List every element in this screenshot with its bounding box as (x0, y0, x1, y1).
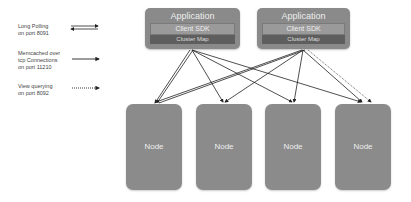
cluster-map: Cluster Map (262, 35, 345, 44)
legend-long-polling: Long Polling on port 8091 (18, 23, 49, 37)
client-sdk: Client SDK (150, 23, 235, 35)
node-3: Node (265, 104, 321, 190)
application-box-2: Application Client SDK Cluster Map (257, 8, 350, 49)
cluster-map: Cluster Map (150, 35, 235, 44)
application-title: Application (145, 11, 240, 21)
node-1: Node (126, 104, 182, 190)
client-sdk: Client SDK (262, 23, 345, 35)
legend-memcached: Memcached over tcp Connections on port 1… (18, 50, 60, 71)
node-2: Node (196, 104, 252, 190)
application-title: Application (257, 11, 350, 21)
application-box-1: Application Client SDK Cluster Map (145, 8, 240, 49)
node-4: Node (335, 104, 391, 190)
legend-view-querying: View querying on port 8092 (18, 83, 52, 97)
